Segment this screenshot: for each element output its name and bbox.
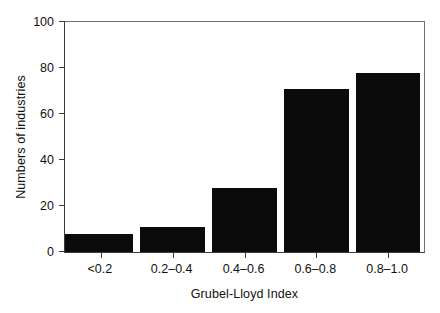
bar — [284, 89, 349, 252]
x-tick-3 — [316, 252, 317, 258]
x-tick-label: <0.2 — [88, 262, 113, 276]
x-tick-1 — [173, 252, 174, 258]
plot-area: 020406080100 — [64, 21, 425, 253]
y-tick-label: 20 — [40, 199, 54, 213]
bar — [356, 73, 421, 252]
x-tick-4 — [388, 252, 389, 258]
bar-chart-figure: Numbers of industries 020406080100 <0.20… — [0, 0, 440, 313]
x-tick-label: 0.8–1.0 — [366, 262, 408, 276]
x-tick-label: 0.6–0.8 — [294, 262, 336, 276]
y-tick-label: 0 — [47, 245, 54, 259]
y-tick-label: 80 — [40, 61, 54, 75]
y-axis-title: Numbers of industries — [10, 21, 32, 253]
bar — [65, 234, 133, 252]
y-tick-label: 40 — [40, 153, 54, 167]
y-tick-label: 60 — [40, 107, 54, 121]
x-tick-label: 0.2–0.4 — [151, 262, 193, 276]
y-tick-label: 100 — [33, 15, 54, 29]
bar — [140, 227, 205, 252]
x-tick-0 — [101, 252, 102, 258]
x-axis-title: Grubel-Lloyd Index — [64, 287, 425, 301]
x-tick-2 — [245, 252, 246, 258]
bar — [212, 188, 277, 252]
bar-series — [65, 22, 424, 252]
x-axis-tick-labels: <0.20.2–0.40.4–0.60.6–0.80.8–1.0 — [64, 262, 425, 282]
x-tick-label: 0.4–0.6 — [223, 262, 265, 276]
